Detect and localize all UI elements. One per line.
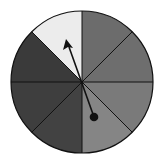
spinner (0, 0, 163, 165)
pointer-pivot-dot (90, 113, 99, 122)
